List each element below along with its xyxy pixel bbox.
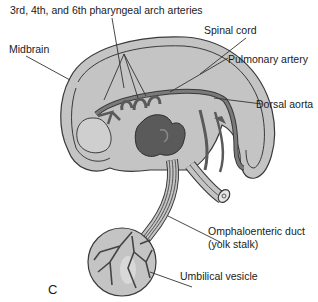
label-spinal-cord: Spinal cord <box>204 24 257 36</box>
umbilical-vesicle <box>88 228 156 296</box>
label-yolk-stalk: (yolk stalk) <box>208 238 258 250</box>
label-pharyngeal-arch-arteries: 3rd, 4th, and 6th pharyngeal arch arteri… <box>10 4 203 16</box>
label-omphaloenteric-duct: Omphaloenteric duct <box>208 225 305 237</box>
label-dorsal-aorta: Dorsal aorta <box>256 98 313 110</box>
label-pulmonary-artery: Pulmonary artery <box>228 53 308 65</box>
panel-letter: C <box>48 282 57 297</box>
label-midbrain: Midbrain <box>9 43 49 55</box>
gut-tube <box>190 165 232 205</box>
label-umbilical-vesicle: Umbilical vesicle <box>180 270 258 282</box>
